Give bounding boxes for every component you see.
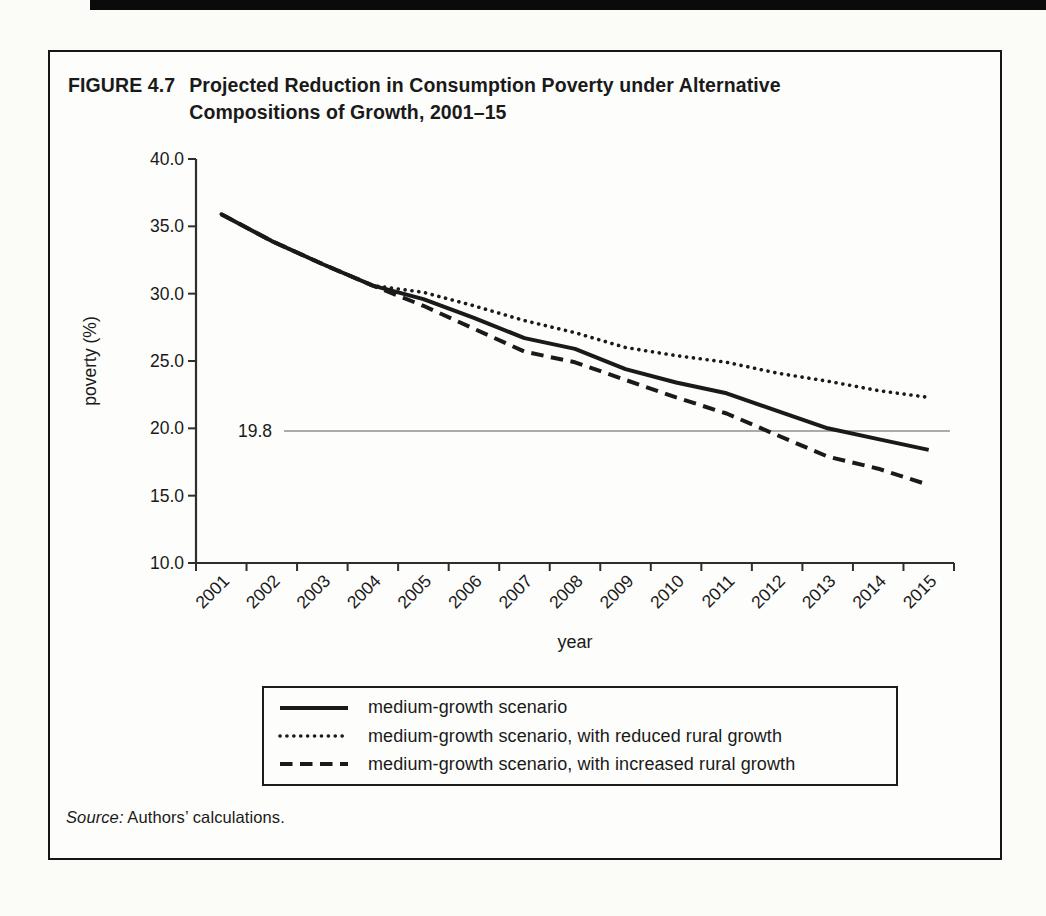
x-tick-label: 2002 [242, 571, 284, 613]
x-tick-label: 2011 [698, 571, 739, 612]
x-tick-label: 2003 [292, 571, 334, 613]
legend-sample-dashed-line [278, 758, 350, 770]
x-tick-label: 2013 [798, 571, 840, 613]
x-axis-title: year [557, 632, 592, 652]
legend-sample-solid-line [278, 702, 350, 714]
legend-item-label: medium-growth scenario, with increased r… [368, 754, 795, 775]
source-label: Source: [66, 808, 124, 826]
y-axis-title: poverty (%) [80, 316, 100, 405]
x-tick-label: 2005 [394, 571, 436, 613]
reference-line-label: 19.8 [238, 421, 272, 441]
legend-item: medium-growth scenario [278, 697, 896, 718]
x-tick-label: 2006 [444, 571, 486, 613]
legend-item: medium-growth scenario, with increased r… [278, 754, 896, 775]
legend-item: medium-growth scenario, with reduced rur… [278, 726, 896, 747]
source-text: Authors’ calculations. [124, 808, 285, 826]
x-tick-label: 2010 [646, 571, 688, 613]
y-tick-label: 15.0 [150, 486, 184, 506]
y-tick-label: 25.0 [150, 351, 184, 371]
chart-legend: medium-growth scenariomedium-growth scen… [262, 686, 898, 786]
x-tick-label: 2001 [191, 571, 233, 613]
series-line-solid [221, 214, 928, 450]
x-tick-label: 2004 [343, 571, 385, 613]
legend-sample-dotted-line [278, 730, 350, 742]
x-tick-label: 2015 [899, 571, 941, 613]
x-tick-label: 2007 [495, 571, 537, 613]
legend-item-label: medium-growth scenario, with reduced rur… [368, 726, 782, 747]
x-tick-label: 2008 [545, 571, 587, 613]
x-tick-label: 2009 [596, 571, 638, 613]
legend-item-label: medium-growth scenario [368, 697, 567, 718]
scanned-page: FIGURE 4.7 Projected Reduction in Consum… [0, 0, 1046, 916]
y-tick-label: 40.0 [150, 149, 184, 169]
source-note: Source: Authors’ calculations. [66, 808, 285, 827]
x-tick-label: 2014 [848, 571, 890, 613]
y-tick-label: 35.0 [150, 216, 184, 236]
y-tick-label: 10.0 [150, 553, 184, 573]
y-tick-label: 20.0 [150, 418, 184, 438]
x-tick-label: 2012 [747, 571, 789, 613]
y-tick-label: 30.0 [150, 284, 184, 304]
series-line-dotted [221, 214, 928, 397]
